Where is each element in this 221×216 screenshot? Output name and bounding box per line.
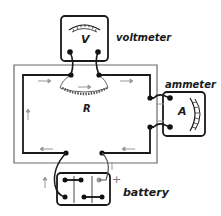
terminals [63,72,152,155]
board-frame [14,65,157,163]
arrow-left-icon [40,147,53,151]
current-arrows [26,79,164,188]
resistor-coil [60,75,108,94]
voltmeter-symbol: V [81,33,90,46]
battery [54,153,110,205]
arrow-up-icon [43,177,47,188]
voltmeter-label: voltmeter [116,32,171,43]
ammeter-label: ammeter [165,79,216,90]
battery-label: battery [123,186,169,199]
battery-positive-sign: + [112,173,121,186]
arrow-right-icon [120,79,133,83]
circuit-diagram [0,0,221,216]
arrow-right-icon [38,79,51,83]
arrow-left-icon [122,147,135,151]
ammeter-symbol: A [178,105,187,118]
arrow-right-icon [78,85,91,89]
resistor-symbol: R [83,103,91,114]
arrow-up-icon [26,109,30,120]
